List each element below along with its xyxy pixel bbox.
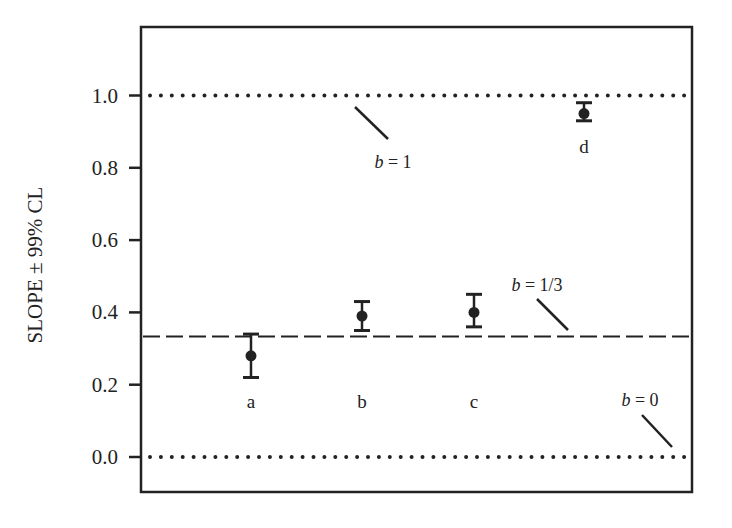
y-tick-label: 0.0 — [92, 445, 118, 469]
point-label: b — [357, 391, 367, 412]
point-label: c — [470, 391, 478, 412]
annotation-variable: b — [374, 152, 383, 172]
y-tick-label: 0.6 — [92, 228, 118, 252]
y-axis: 0.00.20.40.60.81.0 — [92, 84, 141, 470]
point-marker — [579, 108, 590, 119]
y-axis-label: SLOPE ± 99% CL — [23, 187, 47, 344]
annotation-leader-line — [537, 299, 568, 330]
data-point-c: c — [466, 294, 482, 412]
annotation-label: b = 1/3 — [511, 275, 562, 295]
data-point-b: b — [354, 302, 370, 412]
point-label: d — [579, 136, 589, 157]
reference-lines — [143, 96, 692, 458]
point-marker — [469, 307, 480, 318]
annotation-label: b = 0 — [621, 390, 658, 410]
point-marker — [357, 311, 368, 322]
annotation-leader-line — [355, 107, 388, 139]
data-points: abcd — [243, 103, 592, 412]
y-tick-label: 0.8 — [92, 156, 118, 180]
y-tick-label: 1.0 — [92, 84, 118, 108]
annotation-variable: b — [621, 390, 630, 410]
point-label: a — [247, 391, 256, 412]
data-point-d: d — [576, 103, 592, 157]
annotation-variable: b — [511, 275, 520, 295]
point-marker — [246, 350, 257, 361]
reference-annotations: b = 1b = 1/3b = 0 — [355, 107, 672, 447]
data-point-a: a — [243, 334, 259, 412]
annotation-leader-line — [642, 415, 672, 447]
y-tick-label: 0.2 — [92, 373, 118, 397]
annotation-value: = 1 — [383, 152, 411, 172]
annotation-value: = 0 — [630, 390, 658, 410]
annotation-value: = 1/3 — [520, 275, 562, 295]
y-tick-label: 0.4 — [92, 300, 119, 324]
slope-chart: abcd b = 1b = 1/3b = 0 0.00.20.40.60.81.… — [0, 0, 732, 528]
annotation-label: b = 1 — [374, 152, 411, 172]
